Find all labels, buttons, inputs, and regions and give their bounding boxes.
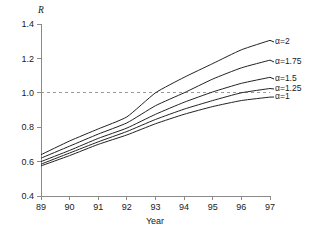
x-axis-ticks: 899091929394959697 (36, 196, 275, 212)
series-line-0 (41, 40, 270, 154)
y-axis-ticks: 0.40.60.81.01.21.4 (21, 19, 41, 201)
data-series-group (41, 40, 270, 166)
y-tick-label: 1.4 (21, 19, 34, 29)
series-leader-1 (270, 60, 274, 62)
x-tick-label: 94 (179, 202, 189, 212)
y-tick-label: 1.0 (21, 88, 34, 98)
series-label-1: α=1.75 (275, 56, 302, 66)
series-label-0: α=2 (275, 36, 290, 46)
y-tick-label: 0.6 (21, 157, 34, 167)
y-tick-label: 1.2 (21, 54, 34, 64)
x-tick-label: 89 (36, 202, 46, 212)
series-labels-group: α=2α=1.75α=1.5α=1.25α=1 (270, 36, 302, 101)
series-line-4 (41, 97, 270, 166)
line-chart: 0.40.60.81.01.21.4 899091929394959697 α=… (0, 0, 316, 233)
y-tick-label: 0.4 (21, 191, 34, 201)
x-tick-label: 97 (265, 202, 275, 212)
series-label-4: α=1 (275, 91, 290, 101)
series-leader-3 (270, 89, 274, 90)
x-axis-title: Year (146, 216, 164, 226)
y-axis-title: R (37, 5, 44, 15)
series-leader-0 (270, 40, 274, 42)
series-leader-2 (270, 77, 274, 79)
chart-container: 0.40.60.81.01.21.4 899091929394959697 α=… (0, 0, 316, 233)
series-label-2: α=1.5 (275, 73, 297, 83)
x-tick-label: 95 (208, 202, 218, 212)
x-tick-label: 92 (122, 202, 132, 212)
y-tick-label: 0.8 (21, 122, 34, 132)
x-tick-label: 91 (93, 202, 103, 212)
x-tick-label: 90 (65, 202, 75, 212)
x-tick-label: 96 (236, 202, 246, 212)
series-line-1 (41, 60, 270, 158)
x-tick-label: 93 (150, 202, 160, 212)
